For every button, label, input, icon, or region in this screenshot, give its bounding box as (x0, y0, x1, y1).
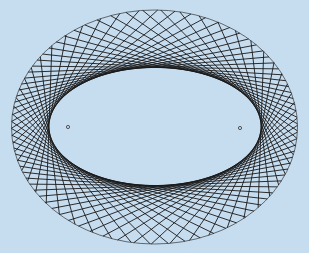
chord-line (126, 12, 298, 131)
focus-point (66, 125, 69, 128)
chord-line (17, 160, 254, 211)
chord-line (15, 154, 245, 217)
chord-line (161, 10, 296, 146)
chord-line (118, 125, 298, 240)
chord-line (111, 16, 298, 124)
caustic-canvas (0, 0, 309, 253)
chord-lines (12, 10, 298, 244)
chord-line (189, 94, 291, 241)
chord-line (199, 16, 290, 164)
chord-line (12, 129, 201, 238)
chord-line (14, 106, 150, 244)
focus-point (238, 126, 241, 129)
chord-line (43, 54, 286, 81)
focal-points (66, 125, 241, 129)
